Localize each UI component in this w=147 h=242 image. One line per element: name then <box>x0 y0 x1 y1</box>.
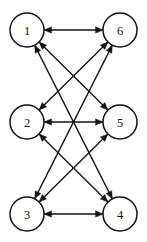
arrowhead <box>35 45 41 53</box>
node-label: 4 <box>117 208 124 222</box>
edge-3-4 <box>44 211 103 217</box>
graph-node-6[interactable]: 6 <box>103 13 137 47</box>
arrowhead <box>35 191 41 199</box>
graph-node-1[interactable]: 1 <box>10 13 44 47</box>
node-label: 6 <box>117 24 123 38</box>
graph-node-5[interactable]: 5 <box>103 105 137 139</box>
arrowhead <box>96 211 104 217</box>
arrowhead <box>44 211 52 217</box>
arrowhead <box>96 27 104 33</box>
graph-figure: 162534 <box>0 0 147 242</box>
arrowhead <box>96 119 104 125</box>
node-label: 5 <box>117 116 123 130</box>
graph-canvas: 162534 <box>0 0 147 242</box>
arrowhead <box>106 45 112 53</box>
graph-node-2[interactable]: 2 <box>10 105 44 139</box>
arrowhead <box>44 27 52 33</box>
node-label: 1 <box>24 24 30 38</box>
arrowhead <box>44 119 52 125</box>
node-label: 3 <box>24 208 30 222</box>
arrowhead <box>106 191 112 199</box>
edge-layer <box>35 27 113 217</box>
edge-1-6 <box>44 27 103 33</box>
node-label: 2 <box>24 116 30 130</box>
graph-node-3[interactable]: 3 <box>10 197 44 231</box>
graph-node-4[interactable]: 4 <box>103 197 137 231</box>
